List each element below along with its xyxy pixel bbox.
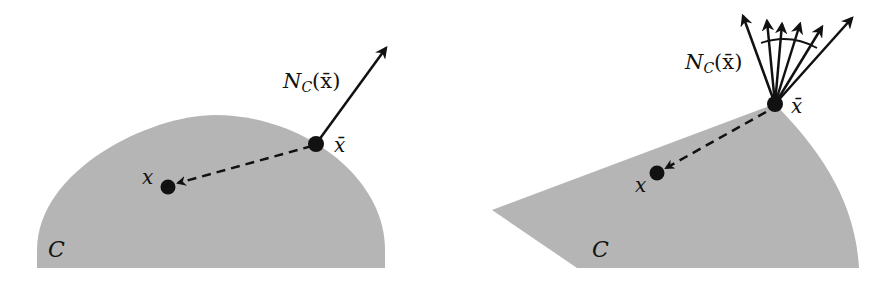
left-panel: NC(x̄) x̄ x C [37,48,386,268]
normal-cone-label: NC(x̄) [282,69,340,95]
point-x [650,166,665,181]
convex-set-cornered [492,104,859,268]
point-x-bar [308,136,324,152]
x-bar-label: x̄ [334,133,345,157]
convex-set-smooth [37,115,385,268]
x-bar-label: x̄ [791,94,802,118]
set-label: C [48,237,65,262]
x-label: x [142,165,153,189]
x-label: x [635,173,646,197]
set-label: C [592,237,609,262]
normal-cone-diagram: NC(x̄) x̄ x C NC(x̄) x̄ x C [0,0,895,286]
point-x [161,180,176,195]
normal-cone-label: NC(x̄) [684,50,742,76]
normal-vector-arrow [316,48,386,144]
right-panel: NC(x̄) x̄ x C [492,16,859,268]
point-x-bar [767,96,783,112]
normal-cone-arrows [743,16,852,104]
